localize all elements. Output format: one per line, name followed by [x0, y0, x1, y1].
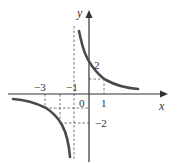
guide-lines	[45, 26, 104, 160]
origin-label: 0	[79, 97, 85, 109]
y-axis-label: y	[76, 6, 83, 20]
curve-left-branch	[13, 99, 70, 157]
y-axis-arrow-icon	[86, 10, 93, 18]
x-axis-arrow-icon	[160, 91, 168, 98]
curve-right-branch	[79, 31, 138, 89]
hyperbola-graph: y x 0 −3 −1 1 2 −2	[0, 0, 178, 163]
tick-label-x-neg1: −1	[66, 81, 78, 93]
tick-label-y-neg2: −2	[95, 117, 107, 129]
tick-label-x-neg3: −3	[34, 81, 46, 93]
labels: y x 0 −3 −1 1 2 −2	[34, 6, 165, 129]
tick-label-y-2: 2	[94, 59, 100, 71]
x-axis-label: x	[158, 99, 165, 113]
tick-label-x-1: 1	[101, 97, 107, 109]
axes	[8, 10, 168, 162]
